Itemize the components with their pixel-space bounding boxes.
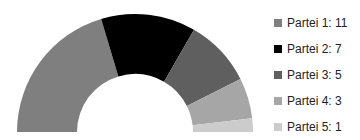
half-donut-chart (0, 0, 260, 140)
legend-swatch (274, 19, 282, 27)
legend-swatch (274, 45, 282, 53)
slice-partei-1 (17, 19, 118, 132)
legend-item: Partei 4: 3 (274, 88, 347, 114)
legend-item: Partei 1: 11 (274, 10, 347, 36)
legend-label: Partei 3: 5 (287, 68, 342, 82)
legend-swatch (274, 97, 282, 105)
legend: Partei 1: 11 Partei 2: 7 Partei 3: 5 Par… (274, 10, 347, 140)
legend-swatch (274, 71, 282, 79)
legend-item: Partei 3: 5 (274, 62, 347, 88)
legend-item: Partei 2: 7 (274, 36, 347, 62)
legend-label: Partei 4: 3 (287, 94, 342, 108)
legend-item: Partei 5: 1 (274, 114, 347, 140)
legend-label: Partei 1: 11 (287, 16, 347, 30)
legend-swatch (274, 123, 282, 131)
legend-label: Partei 5: 1 (287, 120, 342, 134)
legend-label: Partei 2: 7 (287, 42, 342, 56)
